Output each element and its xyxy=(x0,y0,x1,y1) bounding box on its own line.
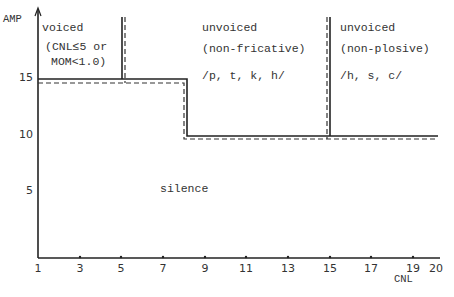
y-tick-5: 5 xyxy=(13,184,33,197)
nonplosive-subtitle: (non-plosive) xyxy=(340,42,430,55)
voiced-condition-2: MOM<1.0) xyxy=(51,55,106,68)
nonfricative-title: unvoiced xyxy=(202,21,257,34)
x-tick-9: 9 xyxy=(202,262,209,275)
x-tick-11: 11 xyxy=(239,262,253,275)
y-tick-15: 15 xyxy=(13,71,33,84)
voiced-title: voiced xyxy=(42,21,83,34)
x-tick-1: 1 xyxy=(35,262,42,275)
silence-label: silence xyxy=(160,182,208,195)
nonplosive-title: unvoiced xyxy=(340,21,395,34)
x-tick-7: 7 xyxy=(160,262,167,275)
x-tick-5: 5 xyxy=(118,262,125,275)
x-tick-3: 3 xyxy=(77,262,84,275)
y-tick-10: 10 xyxy=(13,128,33,141)
x-tick-15: 15 xyxy=(323,262,337,275)
x-tick-19: 19 xyxy=(406,262,420,275)
nonfricative-phonemes: /p, t, k, h/ xyxy=(202,69,285,82)
x-tick-13: 13 xyxy=(281,262,295,275)
x-tick-20: 20 xyxy=(429,262,443,275)
solid-threshold-line xyxy=(38,79,438,136)
nonplosive-phonemes: /h, s, c/ xyxy=(340,69,402,82)
voiced-condition-1: (CNL≤5 or xyxy=(45,40,107,53)
nonfricative-subtitle: (non-fricative) xyxy=(202,42,306,55)
y-axis-label: AMP xyxy=(3,13,22,26)
x-tick-17: 17 xyxy=(364,262,378,275)
dashed-threshold-line xyxy=(38,83,438,139)
